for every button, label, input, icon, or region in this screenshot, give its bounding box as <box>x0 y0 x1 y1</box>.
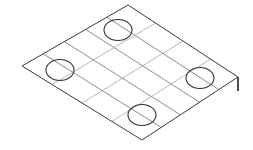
technical-drawing-canvas <box>0 0 253 150</box>
drawing-background <box>0 0 253 150</box>
